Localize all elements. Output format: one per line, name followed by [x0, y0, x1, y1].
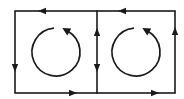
arc-arrowhead-icon — [60, 25, 71, 36]
arc-arrowhead-icon — [140, 25, 151, 36]
arrow-right-icon — [69, 90, 77, 96]
arrow-left-icon — [38, 8, 46, 14]
arrow-left-icon — [118, 8, 126, 14]
arrow-up-icon — [172, 27, 178, 35]
arrow-down-icon — [94, 64, 100, 72]
arrow-down-icon — [12, 64, 18, 72]
arrow-right-icon — [151, 90, 159, 96]
right-loop-circulation-icon — [112, 25, 160, 76]
loop-frame — [15, 11, 175, 93]
two-loop-circuit-diagram — [0, 0, 184, 99]
arrow-up-icon — [94, 28, 100, 36]
outer-rectangle — [15, 11, 175, 93]
left-loop-circulation-icon — [32, 25, 80, 76]
edge-arrows — [12, 8, 178, 96]
